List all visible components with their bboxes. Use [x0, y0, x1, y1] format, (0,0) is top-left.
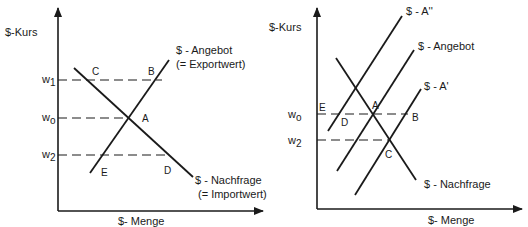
- left-w2-label: w2: [42, 148, 56, 164]
- right-supply-a1-curve: [355, 89, 421, 195]
- right-x-axis-label: $- Menge: [428, 214, 474, 226]
- right-diagram: [317, 8, 522, 209]
- right-point-c: C: [385, 149, 392, 160]
- left-demand-sublabel: (= Importwert): [198, 188, 267, 200]
- left-point-a: A: [142, 113, 149, 124]
- left-point-d: D: [164, 165, 171, 176]
- right-point-e: E: [319, 102, 326, 113]
- right-supply-label: $ - Angebot: [418, 40, 474, 52]
- left-point-c: C: [92, 66, 99, 77]
- right-w2-label: w2: [288, 134, 302, 150]
- left-supply-sublabel: (= Exportwert): [176, 58, 245, 70]
- left-w1-label: w1: [42, 73, 56, 89]
- left-supply-curve: [90, 60, 169, 173]
- left-supply-label: $ - Angebot: [176, 44, 232, 56]
- left-w0-label: wo: [42, 111, 56, 127]
- right-demand-label: $ - Nachfrage: [424, 178, 491, 190]
- left-demand-curve: [74, 68, 193, 177]
- right-w0-label: wo: [288, 108, 302, 124]
- right-point-d: D: [341, 117, 348, 128]
- left-demand-label: $ - Nachfrage: [195, 174, 262, 186]
- right-y-axis-label: $-Kurs: [269, 21, 301, 33]
- right-supply-a2-label: $ - A'': [406, 5, 433, 17]
- right-point-b: B: [412, 112, 419, 123]
- left-point-e: E: [101, 167, 108, 178]
- right-supply-a1-label: $ - A': [424, 80, 449, 92]
- right-point-a: A: [372, 100, 379, 111]
- left-y-axis-label: $-Kurs: [5, 26, 37, 38]
- left-x-axis-label: $- Menge: [118, 215, 164, 227]
- left-point-b: B: [148, 66, 155, 77]
